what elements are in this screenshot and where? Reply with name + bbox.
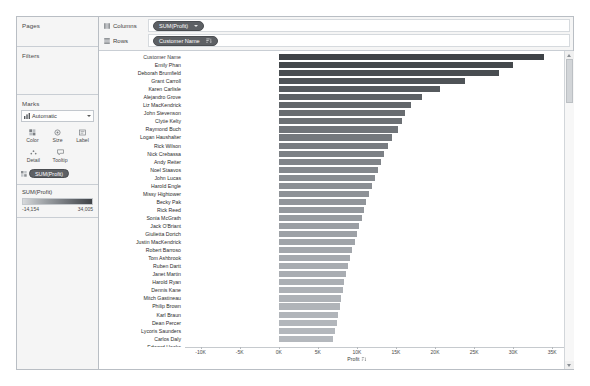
bar-mark[interactable]	[279, 247, 352, 253]
row-label[interactable]: Noel Staavos	[99, 166, 185, 174]
row-label[interactable]: Grant Carroll	[99, 77, 185, 85]
row-label[interactable]: Clytie Kelty	[99, 117, 185, 125]
bar-mark[interactable]	[279, 134, 392, 140]
marks-detail-button[interactable]: Detail	[20, 146, 47, 166]
row-label[interactable]: Janet Martin	[99, 270, 185, 278]
rows-shelf[interactable]: Rows Customer Name	[102, 34, 570, 47]
bar-mark[interactable]	[279, 86, 440, 92]
row-label[interactable]: Deborah Brumfield	[99, 69, 185, 77]
columns-shelf-dropzone[interactable]: SUM(Profit)	[148, 19, 570, 32]
bar-mark[interactable]	[279, 303, 340, 309]
marks-tooltip-button[interactable]: Tooltip	[47, 146, 74, 166]
bar-mark[interactable]	[279, 118, 402, 124]
row-label[interactable]: Harold Engle	[99, 182, 185, 190]
bar-mark[interactable]	[279, 102, 411, 108]
scroll-down-button[interactable]	[565, 361, 574, 369]
bar-row	[185, 182, 564, 190]
bar-mark[interactable]	[279, 110, 406, 116]
bar-mark[interactable]	[279, 207, 364, 213]
row-label[interactable]: Liz MacKendrick	[99, 101, 185, 109]
bar-mark[interactable]	[279, 231, 357, 237]
cards-column-filler	[17, 218, 98, 369]
bar-mark[interactable]	[279, 239, 355, 245]
bar-mark[interactable]	[279, 199, 367, 205]
bar-mark[interactable]	[279, 151, 384, 157]
row-label[interactable]: Dean Percer	[99, 319, 185, 327]
bar-mark[interactable]	[279, 287, 343, 293]
row-label[interactable]: Karen Carlisle	[99, 85, 185, 93]
bar-mark[interactable]	[279, 271, 346, 277]
bar-mark[interactable]	[279, 78, 465, 84]
bar-mark[interactable]	[279, 295, 342, 301]
bar-mark[interactable]	[279, 183, 372, 189]
row-label[interactable]: Karl Braun	[99, 311, 185, 319]
x-axis-title-group[interactable]: Profit	[347, 356, 366, 362]
row-label[interactable]: Rick Reed	[99, 206, 185, 214]
rows-shelf-dropzone[interactable]: Customer Name	[148, 34, 570, 47]
row-label[interactable]: Raymond Buch	[99, 125, 185, 133]
bar-mark[interactable]	[279, 263, 348, 269]
marks-label-button[interactable]: Label	[70, 126, 95, 146]
x-axis-scale[interactable]: Profit -10K-5K0K5	[185, 347, 564, 369]
row-label[interactable]: Harold Ryan	[99, 278, 185, 286]
scroll-up-button[interactable]	[565, 51, 574, 59]
bar-mark[interactable]	[279, 320, 337, 326]
bar-mark[interactable]	[279, 223, 359, 229]
vertical-scrollbar[interactable]	[564, 51, 573, 369]
marks-color-encoding-row[interactable]: SUM(Profit)	[21, 169, 94, 178]
bar-mark[interactable]	[279, 336, 334, 342]
bar-mark[interactable]	[279, 159, 381, 165]
scrollbar-thumb[interactable]	[566, 59, 573, 103]
bar-mark[interactable]	[279, 175, 375, 181]
marks-detail-label: Detail	[27, 157, 40, 163]
rows-pill-customer-name[interactable]: Customer Name	[153, 36, 218, 46]
row-label[interactable]: Carlos Daly	[99, 335, 185, 343]
row-label[interactable]: John Stevenson	[99, 109, 185, 117]
scrollbar-track[interactable]	[565, 59, 574, 361]
bar-mark[interactable]	[279, 167, 378, 173]
bar-mark[interactable]	[279, 279, 345, 285]
row-label[interactable]: John Lucas	[99, 174, 185, 182]
row-label[interactable]: Philip Brown	[99, 302, 185, 310]
row-label[interactable]: Lycoris Saunders	[99, 327, 185, 335]
row-label[interactable]: Mitch Gastineau	[99, 294, 185, 302]
row-label[interactable]: Ruben Dartt	[99, 262, 185, 270]
bar-mark[interactable]	[279, 191, 369, 197]
row-label[interactable]: Jack O'Briant	[99, 222, 185, 230]
bar-mark[interactable]	[279, 126, 398, 132]
marks-sum-profit-pill[interactable]: SUM(Profit)	[29, 169, 69, 178]
row-label[interactable]: Emily Phan	[99, 61, 185, 69]
bar-mark[interactable]	[279, 312, 338, 318]
bar-mark[interactable]	[279, 143, 388, 149]
row-label[interactable]: Andy Reiter	[99, 158, 185, 166]
bar-mark[interactable]	[279, 70, 499, 76]
marks-color-button[interactable]: Color	[20, 126, 45, 146]
bar-mark[interactable]	[279, 54, 545, 60]
row-label[interactable]: Nick Crebassa	[99, 150, 185, 158]
row-label[interactable]: Giulietta Dortch	[99, 230, 185, 238]
columns-pill-sum-profit[interactable]: SUM(Profit)	[153, 21, 204, 31]
sort-desc-icon[interactable]	[361, 357, 366, 362]
row-label[interactable]: Justin MacKendrick	[99, 238, 185, 246]
row-label[interactable]: Dennis Kane	[99, 286, 185, 294]
row-label[interactable]: Rick Wilson	[99, 142, 185, 150]
filters-card[interactable]: Filters	[17, 47, 98, 95]
bar-mark[interactable]	[279, 328, 335, 334]
bar-mark[interactable]	[279, 255, 350, 261]
row-label[interactable]: Sonia McGrath	[99, 214, 185, 222]
row-label[interactable]: Alejandro Grove	[99, 93, 185, 101]
pages-card[interactable]: Pages	[17, 17, 98, 47]
mark-type-dropdown[interactable]: Automatic	[21, 110, 94, 122]
row-label[interactable]: Tom Ashbrook	[99, 254, 185, 262]
columns-shelf[interactable]: Columns SUM(Profit)	[102, 19, 570, 32]
bar-mark[interactable]	[279, 94, 422, 100]
row-label[interactable]: Missy Hightower	[99, 190, 185, 198]
color-legend-gradient[interactable]	[22, 198, 93, 205]
row-label[interactable]: Logan Haushalter	[99, 133, 185, 141]
bar-mark[interactable]	[279, 62, 513, 68]
row-label[interactable]: Becky Pak	[99, 198, 185, 206]
row-label[interactable]: Robert Barroso	[99, 246, 185, 254]
marks-size-button[interactable]: Size	[45, 126, 70, 146]
bar-mark[interactable]	[279, 215, 362, 221]
x-axis-tick-label: 10K	[352, 349, 361, 355]
